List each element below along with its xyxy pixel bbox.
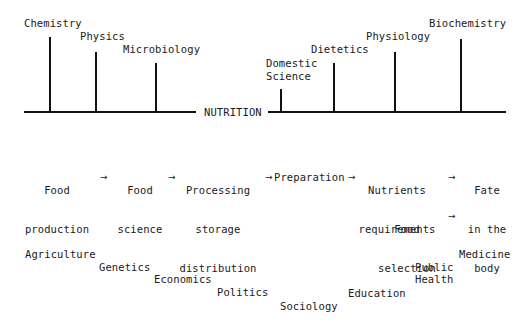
domestic-science-bar xyxy=(280,89,282,112)
arrow-icon: → xyxy=(265,171,273,184)
label-microbiology: Microbiology xyxy=(123,43,200,56)
label-agriculture: Agriculture xyxy=(25,248,96,261)
label-science: Science xyxy=(266,70,311,83)
label-genetics: Genetics xyxy=(99,261,150,274)
right-baseline xyxy=(268,111,506,113)
chemistry-bar xyxy=(49,37,51,112)
chain-food-production: Food production xyxy=(22,158,92,262)
label-physiology: Physiology xyxy=(366,30,430,43)
physics-bar xyxy=(95,52,97,112)
arrow-icon: → xyxy=(448,171,456,184)
label-chemistry: Chemistry xyxy=(24,17,82,30)
label-dietetics: Dietetics xyxy=(311,43,369,56)
arrow-icon: → xyxy=(448,210,456,223)
nutrition-diagram: NUTRITION Chemistry Physics Microbiology… xyxy=(0,0,532,332)
label-sociology: Sociology xyxy=(280,300,338,313)
chain-preparation: Preparation xyxy=(274,171,345,184)
microbiology-bar xyxy=(155,63,157,112)
center-label: NUTRITION xyxy=(204,106,262,119)
label-politics: Politics xyxy=(217,286,268,299)
dietetics-bar xyxy=(333,63,335,112)
label-domestic: Domestic xyxy=(266,57,317,70)
label-physics: Physics xyxy=(80,30,125,43)
arrow-icon: → xyxy=(348,171,356,184)
arrow-icon: → xyxy=(168,171,176,184)
arrow-icon: → xyxy=(100,171,108,184)
biochemistry-bar xyxy=(460,39,462,112)
chain-fate-in-body: Fate in the body xyxy=(463,158,511,301)
physiology-bar xyxy=(394,52,396,112)
label-medicine: Medicine xyxy=(459,248,510,261)
label-biochemistry: Biochemistry xyxy=(429,17,506,30)
label-health: Health xyxy=(415,273,454,286)
label-education: Education xyxy=(348,287,406,300)
chain-food-science: Food science xyxy=(115,158,165,262)
label-economics: Economics xyxy=(154,273,212,286)
